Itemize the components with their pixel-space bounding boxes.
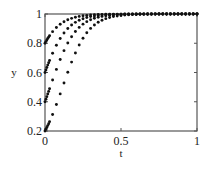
data-point (63, 82, 66, 85)
data-point (177, 13, 180, 16)
series-y0=0.4 (44, 13, 199, 104)
data-point (55, 44, 58, 47)
data-point (78, 26, 81, 29)
y-tick-label: 0.8 (27, 36, 42, 50)
data-point (131, 13, 134, 16)
data-point (78, 19, 81, 22)
x-tick-label: 0.5 (114, 134, 129, 148)
data-point (89, 18, 92, 21)
axis-ticks: 00.510.20.40.60.81 (27, 7, 200, 148)
data-point (63, 20, 66, 23)
data-point (180, 13, 183, 16)
data-point (44, 71, 47, 74)
data-point (82, 23, 85, 26)
data-point (70, 61, 73, 64)
data-point (78, 15, 81, 18)
data-point (74, 16, 77, 19)
data-point (123, 13, 126, 16)
data-point (142, 13, 145, 16)
data-point (184, 13, 187, 16)
data-point (48, 87, 51, 90)
data-point (127, 13, 130, 16)
data-point (55, 68, 58, 71)
data-point (82, 14, 85, 17)
data-point (93, 13, 96, 16)
data-point (74, 51, 77, 54)
data-point (70, 35, 73, 38)
data-point (59, 92, 62, 95)
data-point (116, 13, 119, 16)
data-point (97, 13, 100, 16)
data-point (158, 13, 161, 16)
data-point (74, 30, 77, 33)
data-point (63, 31, 66, 34)
data-point (66, 27, 69, 30)
data-point (44, 100, 47, 103)
x-tick-label: 0 (42, 134, 48, 148)
data-point (85, 14, 88, 17)
data-point (165, 13, 168, 16)
data-points (44, 13, 199, 133)
data-point (97, 21, 100, 24)
data-point (161, 13, 164, 16)
data-point (66, 71, 69, 74)
data-point (59, 37, 62, 40)
data-point (173, 13, 176, 16)
data-point (169, 13, 172, 16)
y-tick-label: 0.2 (27, 124, 42, 138)
data-point (188, 13, 191, 16)
y-axis-label: y (11, 66, 17, 78)
data-point (63, 49, 66, 52)
data-point (135, 13, 138, 16)
data-point (51, 79, 54, 82)
series-y0=0.2 (44, 13, 199, 133)
data-point (101, 19, 104, 22)
data-point (89, 14, 92, 17)
data-point (101, 13, 104, 16)
y-tick-label: 0.6 (27, 66, 42, 80)
data-point (82, 17, 85, 20)
data-point (196, 13, 199, 16)
data-point (146, 13, 149, 16)
data-point (154, 13, 157, 16)
data-point (45, 95, 48, 98)
data-point (48, 59, 51, 62)
y-tick-label: 0.4 (27, 95, 42, 109)
data-point (59, 58, 62, 61)
data-point (44, 69, 47, 72)
data-point (55, 103, 58, 106)
data-point (48, 34, 51, 37)
data-point (104, 13, 107, 16)
data-point (47, 90, 50, 93)
data-point (51, 113, 54, 116)
data-point (192, 13, 195, 16)
data-point (120, 13, 123, 16)
data-point (108, 13, 111, 16)
data-point (89, 27, 92, 30)
y-tick-label: 1 (36, 7, 42, 21)
data-point (46, 93, 49, 96)
data-point (66, 42, 69, 45)
data-point (70, 24, 73, 27)
x-tick-label: 1 (194, 134, 200, 148)
chart: 00.510.20.40.60.81 t y (0, 0, 210, 169)
data-point (85, 31, 88, 34)
data-point (44, 98, 47, 101)
data-point (74, 21, 77, 24)
data-point (85, 20, 88, 23)
data-point (104, 17, 107, 20)
data-point (51, 30, 54, 33)
data-point (93, 24, 96, 27)
data-point (139, 13, 142, 16)
x-axis-label: t (119, 147, 122, 159)
data-point (59, 23, 62, 26)
data-point (70, 17, 73, 20)
data-point (112, 13, 115, 16)
data-point (66, 18, 69, 21)
data-point (82, 37, 85, 40)
data-point (150, 13, 153, 16)
data-point (51, 52, 54, 55)
data-point (55, 26, 58, 29)
data-point (78, 44, 81, 47)
data-point (48, 120, 51, 123)
